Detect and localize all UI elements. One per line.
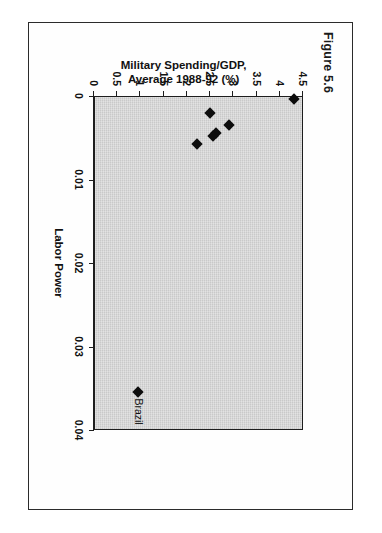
y-tick	[302, 91, 303, 96]
x-tick	[89, 347, 94, 348]
x-tick-label: 0.04	[73, 420, 85, 440]
y-tick	[116, 91, 117, 96]
y-tick	[186, 91, 187, 96]
x-tick	[89, 96, 94, 97]
figure: Figure 5.6 South America 00.010.020.030.…	[28, 22, 353, 510]
y-tick	[209, 91, 210, 96]
y-tick-label: 4.5	[297, 71, 309, 86]
x-tick-label: 0.01	[73, 169, 85, 189]
x-tick-label: 0	[73, 93, 85, 99]
y-axis-title-line2: Average 1988-92 (%)	[74, 72, 294, 86]
rotated-figure-wrapper: Figure 5.6 South America 00.010.020.030.…	[28, 22, 353, 510]
y-tick	[279, 91, 280, 96]
y-tick	[139, 91, 140, 96]
x-tick	[89, 263, 94, 264]
y-tick	[256, 91, 257, 96]
x-tick-label: 0.03	[73, 336, 85, 356]
x-tick	[89, 430, 94, 431]
x-tick	[89, 180, 94, 181]
data-point-label: Brazil	[133, 398, 145, 424]
y-tick	[163, 91, 164, 96]
x-axis-title: Labor Power	[53, 96, 65, 430]
y-axis-line	[94, 96, 303, 97]
figure-caption: Figure 5.6	[321, 32, 335, 93]
y-axis-title: Military Spending/GDP, Average 1988-92 (…	[74, 58, 294, 87]
y-tick	[232, 91, 233, 96]
x-tick-label: 0.02	[73, 253, 85, 273]
y-axis-title-line1: Military Spending/GDP,	[74, 58, 294, 72]
y-tick	[93, 91, 94, 96]
